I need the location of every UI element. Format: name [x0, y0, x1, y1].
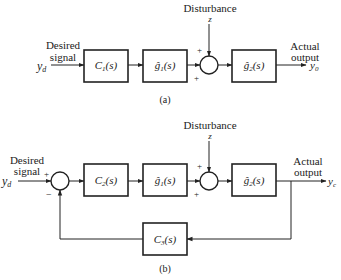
block-c2: C2(s) [84, 164, 128, 196]
input-yd-symbol-b: yd [1, 174, 12, 189]
disturbance-z-symbol-b: z [207, 131, 212, 141]
disturbance-z-symbol-a: z [207, 14, 212, 24]
desired-signal-label-line2: signal [50, 51, 76, 63]
block-c1: C1(s) [84, 50, 128, 82]
block-g1-hat-b: ĝ1(s) [143, 164, 187, 196]
desired-signal-label-line2-b: signal [14, 165, 40, 177]
svg-text:C3(s): C3(s) [154, 233, 177, 247]
sum1-sign-left: + [44, 169, 49, 179]
sum-sign-left: + [194, 73, 199, 83]
svg-text:ĝ2(s): ĝ2(s) [244, 174, 265, 188]
diagram-a: Desired signal yd C1(s) ĝ1(s) + + Distur… [36, 2, 320, 106]
actual-output-label-line2-b: output [294, 166, 322, 178]
desired-signal-label-line1: Desired [46, 39, 81, 51]
sum2-sign-left: + [194, 189, 199, 199]
svg-text:ĝ1(s): ĝ1(s) [155, 59, 176, 73]
block-g2-hat: ĝ2(s) [232, 50, 276, 82]
summing-junction-a [200, 56, 218, 74]
sum1-sign-bottom: − [46, 189, 52, 200]
sum-sign-top: + [197, 45, 202, 55]
caption-a: (a) [159, 94, 170, 106]
block-g2-hat-b: ĝ2(s) [232, 164, 276, 196]
svg-text:C2(s): C2(s) [95, 174, 118, 188]
output-yc-symbol: yc [327, 175, 337, 189]
diagram-b: Desired signal yd + − C2(s) ĝ1(s) + + Di… [1, 119, 337, 275]
summing-junction-b2 [200, 172, 218, 190]
input-yd-symbol: yd [36, 59, 47, 74]
block-c3: C3(s) [143, 223, 187, 255]
caption-b: (b) [159, 263, 171, 275]
feedback-line-to-sum1 [60, 190, 143, 239]
disturbance-label-b: Disturbance [183, 119, 236, 131]
sum2-sign-top: + [197, 161, 202, 171]
disturbance-label-a: Disturbance [183, 2, 236, 14]
block-g1-hat: ĝ1(s) [143, 50, 187, 82]
svg-text:ĝ2(s): ĝ2(s) [244, 59, 265, 73]
summing-junction-b1 [51, 172, 69, 190]
svg-text:ĝ1(s): ĝ1(s) [155, 174, 176, 188]
svg-text:C1(s): C1(s) [95, 59, 118, 73]
block-diagram-canvas: Desired signal yd C1(s) ĝ1(s) + + Distur… [0, 0, 341, 280]
